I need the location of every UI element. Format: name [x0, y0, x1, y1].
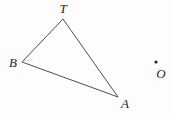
triangle-and-point-diagram: TBAO — [0, 0, 171, 114]
geometry-figure: TBAO — [0, 0, 171, 114]
point-O-dot — [154, 60, 157, 63]
angle-mark-B — [24, 60, 33, 62]
point-O-label: O — [156, 66, 166, 81]
vertex-label-B: B — [9, 55, 17, 70]
vertex-label-T: T — [59, 1, 67, 16]
triangle-outline — [22, 19, 118, 97]
vertex-label-A: A — [120, 96, 129, 111]
